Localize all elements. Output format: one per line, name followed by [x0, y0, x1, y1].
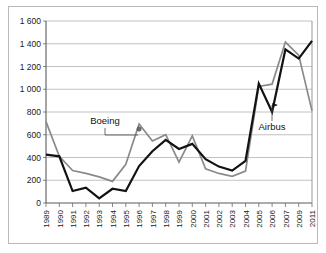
y-axis-tick-label: 600: [27, 130, 41, 140]
y-axis-tick-label: 800: [27, 107, 41, 117]
line-chart: 02004006008001 0001 2001 4001 6001989199…: [0, 0, 326, 253]
x-axis-tick-label: 1999: [175, 209, 184, 227]
x-axis-tick-label: 1990: [56, 209, 65, 227]
annotation-label: Airbus: [259, 121, 286, 132]
y-axis-tick-label: 400: [27, 153, 41, 163]
x-axis-tick-label: 2009: [295, 209, 304, 227]
x-axis-tick-label: 2006: [268, 209, 277, 227]
x-axis-tick-label: 1995: [122, 209, 131, 227]
x-axis-tick-label: 1994: [109, 209, 118, 227]
y-axis-tick-label: 200: [27, 175, 41, 185]
y-axis-tick-label: 1 200: [20, 62, 42, 72]
y-axis-tick-label: 0: [36, 198, 41, 208]
y-axis-tick-label: 1 000: [20, 84, 42, 94]
y-axis-tick-label: 1 400: [20, 39, 42, 49]
x-axis-tick-label: 1989: [42, 209, 51, 227]
y-axis-tick-label: 1 600: [20, 16, 42, 26]
x-axis-tick-label: 1998: [162, 209, 171, 227]
x-axis-tick-label: 2011: [308, 209, 317, 227]
x-axis-tick-label: 1991: [69, 209, 78, 227]
x-axis-tick-label: 2000: [189, 209, 198, 227]
x-axis-tick-label: 2005: [255, 209, 264, 227]
x-axis-tick-label: 2001: [202, 209, 211, 227]
chart-plot-area: 02004006008001 0001 2001 4001 6001989199…: [0, 0, 326, 253]
x-axis-tick-label: 2002: [215, 209, 224, 227]
x-axis-tick-label: 1996: [135, 209, 144, 227]
annotation-marker-dot: [137, 127, 141, 131]
annotation-leader-line: [105, 128, 138, 135]
annotation-label: Boeing: [90, 115, 120, 126]
x-axis-tick-label: 2004: [242, 209, 251, 227]
x-axis-tick-label: 1993: [95, 209, 104, 227]
x-axis-tick-label: 1992: [82, 209, 91, 227]
annotation-airbus: Airbus: [259, 103, 286, 132]
x-axis-tick-label: 2003: [228, 209, 237, 227]
x-axis-tick-label: 1997: [149, 209, 158, 227]
x-axis-tick-label: 2007: [282, 209, 291, 227]
annotation-boeing: Boeing: [90, 115, 141, 135]
